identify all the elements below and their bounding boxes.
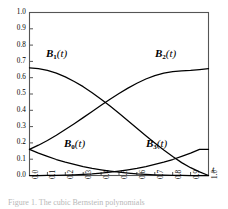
- curve-b2t: [30, 69, 209, 150]
- x-tick-label: 0.0: [33, 169, 40, 178]
- x-tick-label: 0.1: [50, 169, 57, 178]
- curve-label-argument: (t): [75, 137, 85, 149]
- figure-caption: Figure 1. The cubic Bernstein polynomial…: [8, 198, 220, 207]
- bernstein-polynomial-figure: 1.00.90.80.70.60.50.40.30.20.10.0 0.00.1…: [0, 0, 228, 209]
- y-tick-label: 0.4: [11, 107, 26, 114]
- x-tick-label: 0.2: [68, 169, 75, 178]
- curve-label-argument: (t): [166, 47, 176, 59]
- y-tick-label: 0.7: [11, 58, 26, 65]
- y-tick-label: 1.0: [11, 9, 26, 16]
- y-tick-label: 0.5: [11, 90, 26, 97]
- x-tick-label: 0.5: [122, 169, 129, 178]
- x-tick-label: 0.8: [176, 169, 183, 178]
- curve-label-b0: B0(t): [64, 137, 85, 151]
- x-axis-title: t: [212, 164, 215, 174]
- curve-group: [30, 68, 209, 176]
- x-tick-label: 0.7: [158, 169, 165, 178]
- x-tick-label: 0.3: [86, 169, 93, 178]
- y-tick-label: 0.3: [11, 123, 26, 130]
- y-tick-label: 0.0: [11, 172, 26, 179]
- y-tick-label: 0.9: [11, 25, 26, 32]
- curve-label-argument: (t): [157, 137, 167, 149]
- curve-label-b2: B2(t): [155, 47, 176, 61]
- y-tick-label: 0.1: [11, 156, 26, 163]
- curve-label-b1: B1(t): [46, 47, 67, 61]
- curve-label-argument: (t): [57, 47, 67, 59]
- curve-label-b3: B3(t): [146, 137, 167, 151]
- x-tick-label: 0.9: [194, 169, 201, 178]
- y-tick-label: 0.8: [11, 42, 26, 49]
- y-tick-label: 0.2: [11, 139, 26, 146]
- y-tick-label: 0.6: [11, 74, 26, 81]
- x-tick-label: 0.4: [104, 169, 111, 178]
- x-tick-label: 0.6: [140, 169, 147, 178]
